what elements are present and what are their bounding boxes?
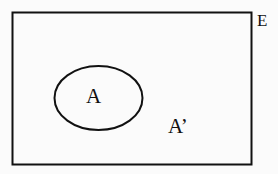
complement-label: A’ (168, 116, 188, 137)
universal-set-rectangle (13, 13, 252, 165)
venn-diagram-shapes (0, 0, 278, 174)
venn-diagram: E A A’ (0, 0, 278, 174)
set-a-label: A (86, 86, 101, 107)
universal-set-label: E (257, 12, 267, 29)
